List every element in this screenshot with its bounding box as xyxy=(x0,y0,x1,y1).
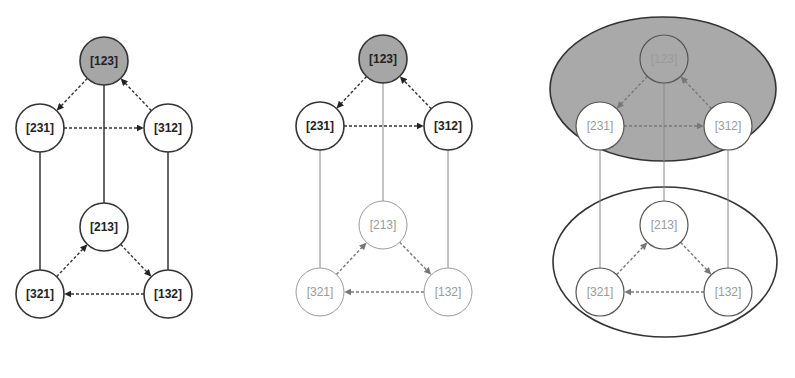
node-right-n231: [231] xyxy=(576,102,624,150)
node-left-n213: [213] xyxy=(80,203,128,251)
node-middle-n321: [321] xyxy=(296,268,344,316)
node-middle-n312: [312] xyxy=(424,102,472,150)
node-right-n132: [132] xyxy=(704,268,752,316)
node-left-n132: [132] xyxy=(144,270,192,318)
edge-arrow-n312-n123 xyxy=(121,79,151,111)
node-right-n312: [312] xyxy=(704,102,752,150)
node-label: [231] xyxy=(26,121,54,135)
node-label: [312] xyxy=(154,121,182,135)
node-right-n321: [321] xyxy=(576,268,624,316)
node-middle-n132: [132] xyxy=(424,268,472,316)
node-label: [123] xyxy=(651,52,678,66)
edge-arrow-n312-n123 xyxy=(400,77,431,109)
node-label: [321] xyxy=(307,285,334,299)
edge-arrow-n321-n213 xyxy=(57,245,87,277)
node-label: [312] xyxy=(715,119,742,133)
edge-arrow-n123-n231 xyxy=(57,78,87,110)
node-left-n312: [312] xyxy=(144,104,192,152)
node-left-n321: [321] xyxy=(16,270,64,318)
edge-arrow-n213-n132 xyxy=(681,242,711,274)
edge-arrow-n321-n213 xyxy=(336,243,365,274)
node-middle-n213: [213] xyxy=(359,201,407,249)
edge-arrow-n123-n231 xyxy=(337,76,366,107)
node-label: [321] xyxy=(26,287,54,301)
node-label: [123] xyxy=(369,52,397,66)
node-middle-n123: [123] xyxy=(359,35,407,83)
node-left-n231: [231] xyxy=(16,104,64,152)
node-label: [321] xyxy=(587,285,614,299)
permutation-diagram: [123][231][312][213][321][132][123][231]… xyxy=(0,0,795,378)
edge-arrow-n321-n213 xyxy=(617,243,647,275)
node-middle-n231: [231] xyxy=(296,102,344,150)
node-label: [132] xyxy=(715,285,742,299)
node-right-n213: [213] xyxy=(640,201,688,249)
node-label: [213] xyxy=(651,218,678,232)
node-label: [132] xyxy=(154,287,182,301)
node-label: [213] xyxy=(90,220,118,234)
node-label: [231] xyxy=(587,119,614,133)
edge-arrow-n213-n132 xyxy=(400,242,431,274)
edge-arrow-n213-n132 xyxy=(121,244,151,276)
node-label: [123] xyxy=(90,54,118,68)
node-label: [231] xyxy=(306,119,334,133)
node-label: [132] xyxy=(435,285,462,299)
node-label: [213] xyxy=(370,218,397,232)
node-left-n123: [123] xyxy=(80,37,128,85)
node-label: [312] xyxy=(434,119,462,133)
